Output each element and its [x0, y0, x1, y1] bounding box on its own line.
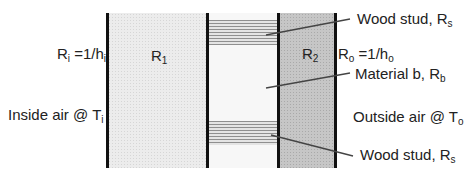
label-outside-air: Outside air @ To [353, 109, 464, 127]
label-ro: Ro =1/ho [338, 46, 394, 64]
label-inside-air: Inside air @ Ti [8, 107, 104, 125]
label-r2: R2 [302, 46, 318, 64]
label-r1: R1 [151, 48, 167, 66]
leader-wood-stud-bottom [271, 135, 353, 156]
leader-wood-stud-top [266, 19, 350, 35]
label-wood-stud-bottom: Wood stud, Rs [360, 147, 456, 165]
label-wood-stud-top: Wood stud, Rs [357, 11, 453, 29]
leader-material-b [266, 73, 350, 88]
label-material-b: Material b, Rb [355, 66, 446, 84]
label-ri: Ri =1/hi [57, 46, 106, 64]
